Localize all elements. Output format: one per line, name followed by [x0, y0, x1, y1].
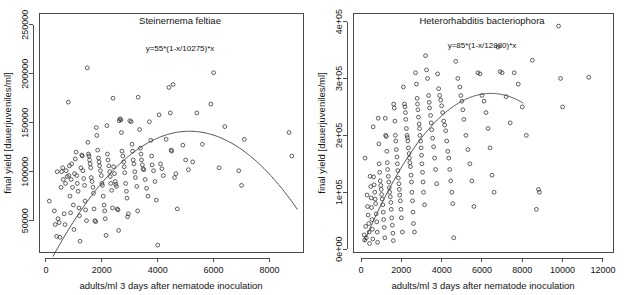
data-point [52, 209, 56, 213]
data-point [156, 243, 160, 247]
data-point [414, 71, 418, 75]
y-tick-label: 100000 [20, 157, 30, 187]
data-point [420, 162, 424, 166]
data-point [390, 223, 394, 227]
data-point [492, 190, 496, 194]
data-point [382, 226, 386, 230]
right-equation-label: y=85*(1-x/12880)*x [448, 41, 517, 50]
data-point [395, 162, 399, 166]
data-point [140, 163, 144, 167]
data-point [399, 216, 403, 220]
data-point [366, 205, 370, 209]
x-tick-label: 12000 [590, 265, 615, 275]
data-point [121, 154, 125, 158]
data-point [422, 190, 426, 194]
x-tick-label: 2000 [391, 265, 411, 275]
data-point [390, 216, 394, 220]
data-point [508, 121, 512, 125]
data-point [109, 182, 113, 186]
data-point [395, 155, 399, 159]
data-point [385, 161, 389, 165]
x-tick-label: 0 [359, 265, 364, 275]
data-point [488, 146, 492, 150]
data-point [89, 176, 93, 180]
data-point [81, 169, 85, 173]
data-point [168, 111, 172, 115]
data-point [62, 212, 66, 216]
data-point [95, 134, 99, 138]
data-point [490, 173, 494, 177]
data-point [181, 143, 185, 147]
data-point [116, 208, 120, 212]
data-point [378, 179, 382, 183]
data-point [88, 158, 92, 162]
data-point [367, 222, 371, 226]
right-scatter-points [362, 24, 591, 245]
data-point [472, 205, 476, 209]
data-point [287, 131, 291, 135]
data-point [73, 157, 77, 161]
data-point [92, 207, 96, 211]
data-point [61, 178, 65, 182]
data-point [133, 176, 137, 180]
data-point [443, 123, 447, 127]
data-point [411, 199, 415, 203]
data-point [86, 140, 90, 144]
data-point [74, 150, 78, 154]
data-point [435, 182, 439, 186]
data-point [392, 102, 396, 106]
data-point [370, 227, 374, 231]
data-point [386, 168, 390, 172]
data-point [423, 203, 427, 207]
data-point [387, 180, 391, 184]
data-point [77, 206, 81, 210]
data-point [160, 167, 164, 171]
data-point [559, 77, 563, 81]
data-point [374, 202, 378, 206]
data-point [456, 77, 460, 81]
data-point [290, 154, 294, 158]
data-point [223, 125, 227, 129]
data-point [143, 178, 147, 182]
data-point [382, 218, 386, 222]
data-point [209, 102, 213, 106]
data-point [439, 98, 443, 102]
data-point [448, 168, 452, 172]
data-point [379, 188, 383, 192]
data-point [438, 94, 442, 98]
y-tick-label: 0e+00 [334, 237, 344, 262]
data-point [425, 68, 429, 72]
data-point [76, 189, 80, 193]
x-tick-label: 8000 [512, 265, 532, 275]
data-point [464, 133, 468, 137]
data-point [428, 106, 432, 110]
data-point [408, 161, 412, 165]
data-point [418, 127, 422, 131]
data-point [399, 207, 403, 211]
data-point [106, 152, 110, 156]
data-point [195, 111, 199, 115]
data-point [452, 236, 456, 240]
data-point [409, 165, 413, 169]
data-point [458, 85, 462, 89]
data-point [486, 127, 490, 131]
data-point [376, 116, 380, 120]
data-point [94, 220, 98, 224]
data-point [431, 136, 435, 140]
data-point [561, 105, 565, 109]
data-point [110, 188, 114, 192]
data-point [520, 105, 524, 109]
data-point [164, 137, 168, 141]
data-point [440, 104, 444, 108]
data-point [436, 72, 440, 76]
data-point [370, 206, 374, 210]
data-point [449, 179, 453, 183]
data-point [421, 170, 425, 174]
data-point [446, 149, 450, 153]
data-point [380, 193, 384, 197]
data-point [397, 182, 401, 186]
data-point [437, 87, 441, 91]
data-point [405, 127, 409, 131]
data-point [378, 170, 382, 174]
data-point [375, 230, 379, 234]
